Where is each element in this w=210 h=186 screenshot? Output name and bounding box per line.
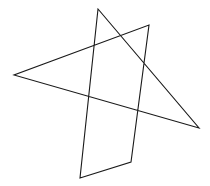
- geometric-figure: [0, 0, 210, 186]
- background: [0, 0, 210, 186]
